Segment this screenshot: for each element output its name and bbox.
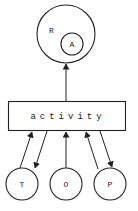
activity-box: activity — [9, 102, 126, 131]
edge-activity-to-t — [35, 131, 47, 168]
node-o-label: O — [64, 180, 69, 189]
node-o: O — [50, 168, 82, 200]
edge-t-to-activity — [20, 132, 32, 168]
node-a-label: A — [70, 40, 75, 49]
node-r: R — [37, 5, 95, 63]
node-a: A — [61, 33, 83, 55]
node-p: P — [94, 168, 126, 200]
node-p-label: P — [108, 180, 113, 189]
edge-p-to-activity — [86, 132, 98, 169]
node-t: T — [6, 168, 38, 200]
node-t-label: T — [20, 180, 25, 189]
activity-box-label: activity — [30, 112, 105, 122]
node-r-label: R — [49, 26, 54, 35]
edge-activity-to-p — [100, 131, 112, 167]
node-r-circle — [37, 5, 95, 63]
diagram-canvas: R A activity T O P — [0, 0, 138, 211]
